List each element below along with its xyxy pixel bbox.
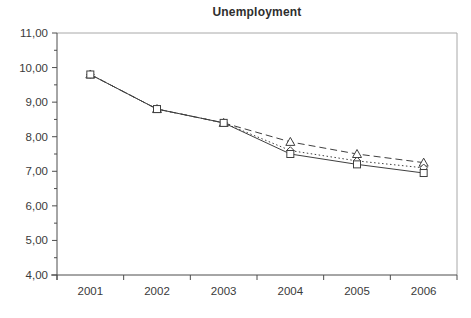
data-point-marker-square — [287, 151, 294, 158]
series-line-square — [90, 74, 423, 173]
data-point-marker-square — [154, 106, 161, 113]
data-point-marker-square — [87, 71, 94, 78]
x-axis-label: 2003 — [211, 285, 237, 297]
y-axis-label: 9,00 — [26, 96, 48, 108]
data-point-marker-square — [220, 119, 227, 126]
series-line-triangle — [90, 74, 423, 162]
data-point-marker-square — [420, 170, 427, 177]
data-point-marker-square — [354, 161, 361, 168]
x-axis-label: 2006 — [411, 285, 437, 297]
chart-plot: 11,0010,009,008,007,006,005,004,00200120… — [0, 0, 471, 318]
y-axis-label: 7,00 — [26, 165, 48, 177]
y-axis-label: 4,00 — [26, 269, 48, 281]
y-axis-label: 6,00 — [26, 200, 48, 212]
x-axis-label: 2005 — [344, 285, 370, 297]
y-axis-label: 5,00 — [26, 234, 48, 246]
series-line-diamond — [90, 74, 423, 167]
y-axis-label: 8,00 — [26, 131, 48, 143]
y-axis-label: 10,00 — [19, 62, 48, 74]
x-axis-label: 2004 — [278, 285, 304, 297]
y-axis-label: 11,00 — [20, 27, 48, 39]
x-axis-label: 2002 — [144, 285, 170, 297]
x-axis-label: 2001 — [78, 285, 104, 297]
unemployment-chart: Unemployment 11,0010,009,008,007,006,005… — [0, 0, 471, 318]
